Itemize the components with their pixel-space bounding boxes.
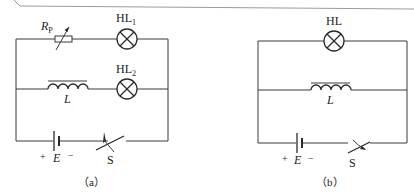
- battery-label-a: E: [52, 151, 61, 165]
- battery-minus-b: −: [308, 153, 314, 164]
- inductor-label-a: L: [63, 92, 71, 106]
- battery-plus-b: +: [282, 153, 288, 164]
- inductor-l-icon: [311, 83, 351, 90]
- switch-s-icon: [96, 132, 124, 152]
- inductor-l-icon: [48, 81, 88, 89]
- caption-a: （a）: [78, 176, 105, 188]
- circuit-b: HL L + E − S （b）: [258, 14, 407, 188]
- rheostat-label: RP: [40, 19, 53, 35]
- switch-label-b: S: [349, 156, 356, 170]
- lamp-hl-icon: [324, 31, 344, 51]
- lamp-hl1-label: HL1: [116, 11, 136, 27]
- lamp-hl2-label: HL2: [116, 62, 136, 78]
- battery-minus-a: −: [68, 150, 74, 161]
- lamp-hl1-icon: [117, 29, 137, 49]
- battery-plus-a: +: [40, 151, 46, 162]
- battery-label-b: E: [293, 153, 302, 167]
- circuit-figure: RP HL1 HL2 L + E − S （a）: [0, 0, 414, 196]
- inductor-label-b: L: [326, 93, 334, 107]
- switch-label-a: S: [107, 153, 114, 167]
- lamp-hl-label: HL: [326, 14, 342, 28]
- lamp-hl2-icon: [117, 79, 137, 99]
- page-frame-line: [14, 0, 414, 9]
- battery-e-icon: [54, 131, 59, 151]
- battery-e-icon: [297, 133, 302, 153]
- caption-b: （b）: [316, 176, 344, 188]
- circuit-a: RP HL1 HL2 L + E − S （a）: [16, 11, 168, 188]
- switch-s-icon: [348, 140, 370, 153]
